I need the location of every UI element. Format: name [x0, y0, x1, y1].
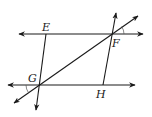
angle-mark-g — [26, 85, 28, 93]
point-label-e: E — [41, 21, 50, 34]
point-label-h: H — [95, 88, 106, 101]
angle-mark-f — [122, 27, 124, 35]
point-label-f: F — [111, 37, 120, 50]
geometry-diagram: E F G H — [0, 0, 152, 117]
line-eg — [36, 34, 46, 110]
point-label-g: G — [28, 72, 37, 85]
transversal-line-gf — [14, 16, 138, 103]
